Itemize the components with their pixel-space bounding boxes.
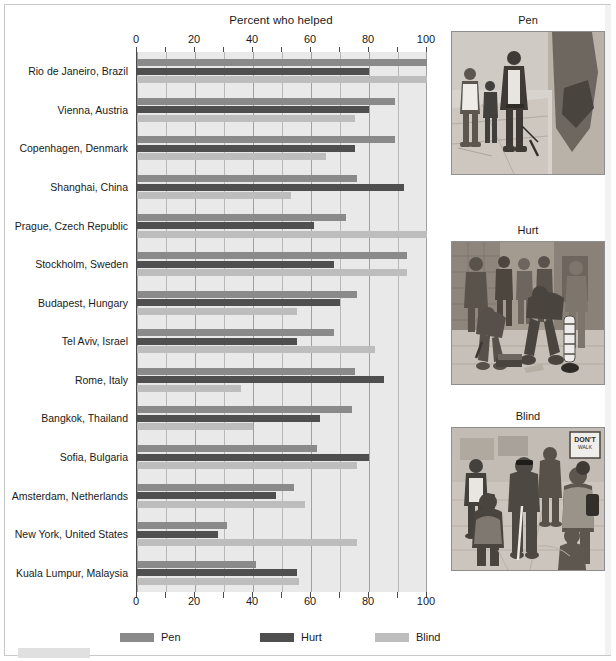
bar-blind xyxy=(137,153,326,160)
x-tick-label-0: 0 xyxy=(133,33,139,45)
bar-group xyxy=(137,291,427,315)
gridline-100 xyxy=(426,52,427,592)
x-tick-label-20: 20 xyxy=(188,33,200,45)
panel-hurt-title: Hurt xyxy=(448,224,608,236)
bar-blind xyxy=(137,192,291,199)
legend-swatch-blind xyxy=(375,633,409,642)
bar-group xyxy=(137,175,427,199)
panel-pen: Pen xyxy=(448,14,608,175)
bar-pen xyxy=(137,561,256,568)
gridline-10 xyxy=(166,52,167,592)
category-label: Sofia, Bulgaria xyxy=(0,451,128,463)
bar-hurt xyxy=(137,492,276,499)
bar-hurt xyxy=(137,261,334,268)
bar-pen xyxy=(137,136,395,143)
bar-group xyxy=(137,445,427,469)
category-label: Kuala Lumpur, Malaysia xyxy=(0,567,128,579)
bar-blind xyxy=(137,269,407,276)
bar-pen xyxy=(137,175,357,182)
legend-label: Blind xyxy=(416,631,440,643)
legend-label: Pen xyxy=(161,631,181,643)
bar-group xyxy=(137,329,427,353)
bar-blind xyxy=(137,578,299,585)
bar-group xyxy=(137,484,427,508)
x-axis-labels-bottom: 020406080100 xyxy=(136,595,426,609)
x-tick-label-60: 60 xyxy=(304,33,316,45)
panel-pen-title: Pen xyxy=(448,14,608,26)
bar-group xyxy=(137,368,427,392)
bar-pen xyxy=(137,59,427,66)
figure-container: Percent who helped 020406080100 02040608… xyxy=(0,0,616,661)
category-label: Rome, Italy xyxy=(0,374,128,386)
bar-hurt xyxy=(137,376,384,383)
bar-pen xyxy=(137,445,317,452)
bar-group xyxy=(137,214,427,238)
bar-hurt xyxy=(137,145,355,152)
plot-inner xyxy=(137,52,427,592)
category-label: Budapest, Hungary xyxy=(0,297,128,309)
bar-hurt xyxy=(137,222,314,229)
gridline-30 xyxy=(224,52,225,592)
bar-hurt xyxy=(137,68,369,75)
y-axis-category-labels: Rio de Janeiro, BrazilVienna, AustriaCop… xyxy=(0,52,128,592)
gridline-80 xyxy=(369,52,370,592)
gridline-70 xyxy=(340,52,341,592)
bar-blind xyxy=(137,231,427,238)
bar-blind xyxy=(137,539,357,546)
bar-hurt xyxy=(137,338,297,345)
category-label: Bangkok, Thailand xyxy=(0,412,128,424)
panel-blind: Blind DON'T WALK xyxy=(448,410,608,571)
legend-item-pen: Pen xyxy=(120,631,181,643)
bar-blind xyxy=(137,423,253,430)
illustration-panels: Pen xyxy=(440,14,616,644)
bar-blind xyxy=(137,501,305,508)
category-label: Copenhagen, Denmark xyxy=(0,142,128,154)
bar-hurt xyxy=(137,415,320,422)
legend-item-blind: Blind xyxy=(375,631,440,643)
gridline-50 xyxy=(282,52,283,592)
category-label: Vienna, Austria xyxy=(0,104,128,116)
bar-hurt xyxy=(137,531,218,538)
x-tick-label-80: 80 xyxy=(362,595,374,607)
legend-swatch-hurt xyxy=(260,633,294,642)
bar-blind xyxy=(137,308,297,315)
svg-text:WALK: WALK xyxy=(578,444,593,450)
gridline-20 xyxy=(195,52,196,592)
bar-group xyxy=(137,561,427,585)
bar-group xyxy=(137,406,427,430)
bar-pen xyxy=(137,484,294,491)
x-tick-label-40: 40 xyxy=(246,33,258,45)
bar-pen xyxy=(137,291,357,298)
bar-blind xyxy=(137,76,427,83)
gridline-0 xyxy=(137,52,138,592)
category-label: Amsterdam, Netherlands xyxy=(0,490,128,502)
x-tick-label-100: 100 xyxy=(417,33,435,45)
bar-pen xyxy=(137,252,407,259)
svg-text:DON'T: DON'T xyxy=(574,436,596,443)
bar-hurt xyxy=(137,106,369,113)
bar-hurt xyxy=(137,569,297,576)
legend-item-hurt: Hurt xyxy=(260,631,322,643)
bar-group xyxy=(137,98,427,122)
category-label: Shanghai, China xyxy=(0,181,128,193)
x-axis-labels-top: 020406080100 xyxy=(136,33,426,47)
category-label: Rio de Janeiro, Brazil xyxy=(0,65,128,77)
gridline-90 xyxy=(398,52,399,592)
x-tick-label-60: 60 xyxy=(304,595,316,607)
panel-blind-title: Blind xyxy=(448,410,608,422)
bar-pen xyxy=(137,329,334,336)
bar-group xyxy=(137,252,427,276)
category-label: Prague, Czech Republic xyxy=(0,220,128,232)
bar-hurt xyxy=(137,454,369,461)
x-tick-label-100: 100 xyxy=(417,595,435,607)
bar-blind xyxy=(137,385,241,392)
x-tick-label-0: 0 xyxy=(133,595,139,607)
category-label: Stockholm, Sweden xyxy=(0,258,128,270)
bar-pen xyxy=(137,214,346,221)
chart-title: Percent who helped xyxy=(136,14,426,26)
panel-pen-illustration xyxy=(451,31,605,175)
category-label: Tel Aviv, Israel xyxy=(0,335,128,347)
bar-blind xyxy=(137,346,375,353)
plot-area xyxy=(136,52,427,592)
bar-group xyxy=(137,136,427,160)
